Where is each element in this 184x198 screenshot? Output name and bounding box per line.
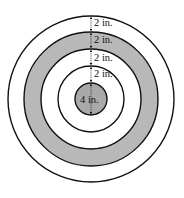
label-gap3: 2 in. (94, 52, 113, 63)
label-gap2: 2 in. (94, 34, 113, 45)
label-gap4: 2 in. (94, 68, 113, 79)
concentric-circles-diagram: 2 in. 2 in. 2 in. 2 in. 4 in. (0, 0, 184, 198)
label-center: 4 in. (80, 94, 99, 105)
label-gap1: 2 in. (94, 17, 113, 28)
